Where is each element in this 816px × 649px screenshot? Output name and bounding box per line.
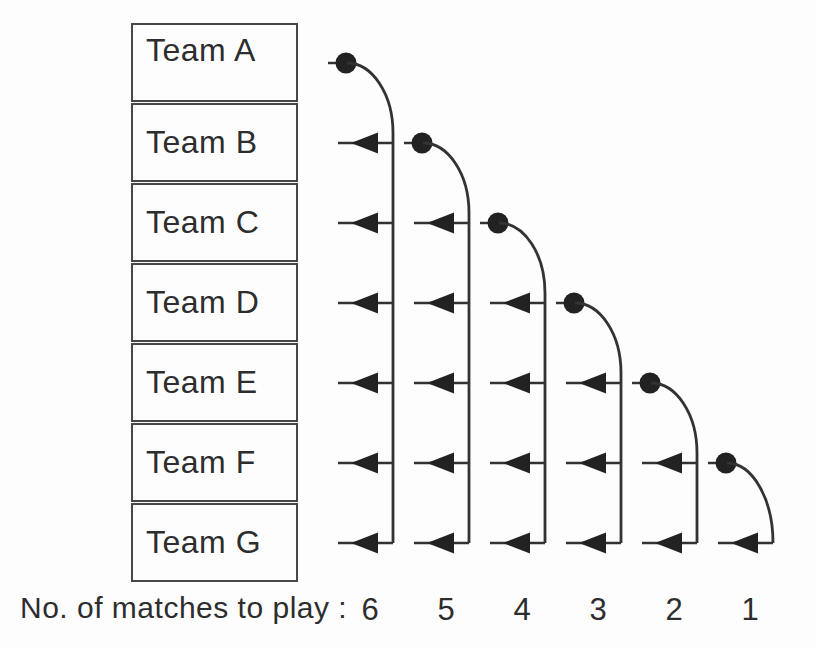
match-count-team-b: 5: [429, 592, 463, 628]
match-curve: [651, 383, 697, 453]
match-count-team-d: 3: [581, 592, 615, 628]
match-arrowhead-icon: [579, 453, 606, 474]
match-curve: [423, 143, 469, 213]
page: Team A Team B Team C Team D Team E Team …: [0, 0, 816, 649]
match-column-team-a: [328, 53, 393, 554]
match-count-team-c: 4: [505, 592, 539, 628]
match-column-team-e: [632, 373, 697, 554]
match-count-team-f: 1: [733, 592, 767, 628]
match-column-team-f: [708, 453, 773, 554]
match-arrowhead-icon: [655, 453, 682, 474]
match-arrowhead-icon: [351, 293, 378, 314]
match-curve: [575, 303, 621, 373]
match-curve: [347, 63, 393, 133]
match-arrowhead-icon: [427, 373, 454, 394]
match-arrowhead-icon: [503, 453, 530, 474]
match-arrowhead-icon: [351, 533, 378, 554]
match-arrowhead-icon: [351, 133, 378, 154]
match-arrowhead-icon: [503, 293, 530, 314]
match-arrowhead-icon: [731, 533, 758, 554]
match-count-team-a: 6: [353, 592, 387, 628]
match-arrowhead-icon: [427, 533, 454, 554]
match-arrowhead-icon: [503, 373, 530, 394]
match-arrowhead-icon: [579, 533, 606, 554]
match-curve: [499, 223, 545, 293]
match-curve: [727, 463, 773, 543]
match-column-team-c: [480, 213, 545, 554]
match-arrowhead-icon: [351, 453, 378, 474]
match-column-team-d: [556, 293, 621, 554]
match-arrowhead-icon: [427, 213, 454, 234]
matches-diagram: [0, 0, 816, 649]
matches-to-play-label: No. of matches to play :: [20, 591, 347, 625]
match-arrowhead-icon: [427, 453, 454, 474]
match-column-team-b: [404, 133, 469, 554]
match-arrowhead-icon: [427, 293, 454, 314]
match-count-team-e: 2: [657, 592, 691, 628]
match-arrowhead-icon: [655, 533, 682, 554]
match-arrowhead-icon: [351, 213, 378, 234]
match-arrowhead-icon: [579, 373, 606, 394]
match-arrowhead-icon: [503, 533, 530, 554]
match-arrowhead-icon: [351, 373, 378, 394]
